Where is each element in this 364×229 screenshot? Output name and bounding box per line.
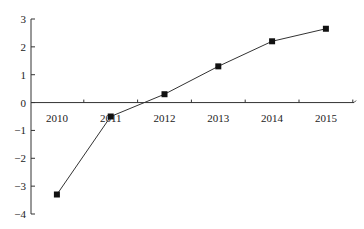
line-chart: 3210−1−2−3−4 201020112012201320142015 [0,0,364,229]
y-tick-label: −1 [14,124,26,136]
y-tick-label: −2 [14,152,26,164]
y-tick-label: 0 [21,97,27,109]
series-line [57,29,326,195]
data-point-marker [54,192,60,198]
y-tick-label: 1 [21,69,27,81]
x-axis: 201020112012201320142015 [31,100,356,124]
data-point-marker [108,114,114,120]
series [54,26,329,198]
y-axis: 3210−1−2−3−4 [14,13,35,220]
y-tick-label: 3 [21,13,27,25]
x-tick-label: 2013 [207,112,230,124]
y-tick-label: −4 [14,208,26,220]
data-point-marker [162,91,168,97]
x-tick-label: 2010 [46,112,69,124]
data-point-marker [215,63,221,69]
x-tick-label: 2014 [261,112,284,124]
data-point-marker [323,26,329,32]
x-tick-label: 2012 [154,112,176,124]
y-tick-label: −3 [14,180,26,192]
data-point-marker [269,38,275,44]
x-axis-end-mark [354,101,356,103]
x-tick-label: 2015 [315,112,338,124]
y-tick-label: 2 [21,41,27,53]
